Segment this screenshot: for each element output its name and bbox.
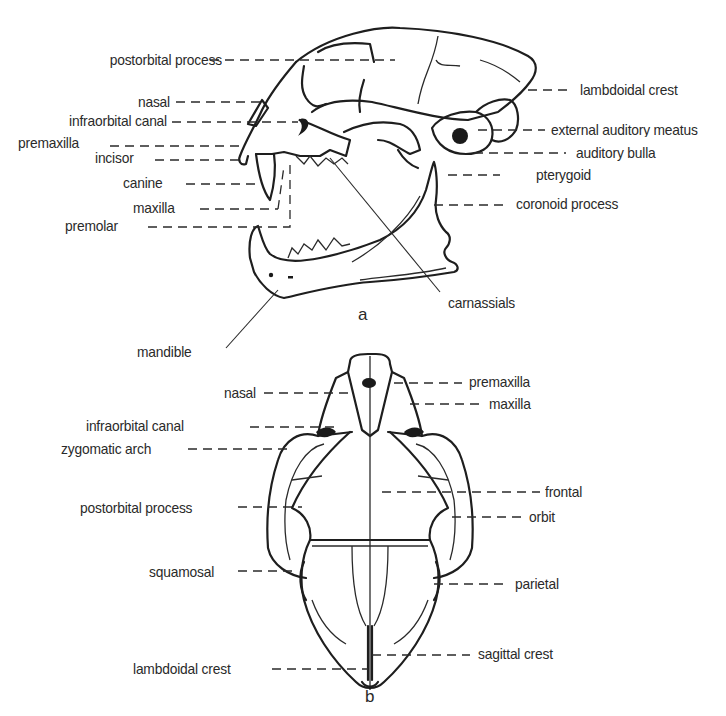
- label-mandible-a: mandible: [137, 344, 192, 359]
- label-sagittal-crest-b: sagittal crest: [478, 646, 553, 661]
- dorsal-leader-lines: [188, 383, 540, 669]
- label-infraorbital-canal-b: infraorbital canal: [86, 418, 184, 433]
- panel-letter-a: a: [358, 305, 367, 325]
- label-frontal-b: frontal: [545, 484, 582, 499]
- label-maxilla-a: maxilla: [133, 200, 175, 215]
- label-auditory-bulla-a: auditory bulla: [576, 145, 656, 160]
- label-premaxilla-a: premaxilla: [18, 135, 79, 150]
- label-canine-a: canine: [123, 175, 163, 190]
- label-incisor-a: incisor: [95, 150, 134, 165]
- label-maxilla-b: maxilla: [489, 396, 531, 411]
- label-coronoid-process-a: coronoid process: [516, 196, 618, 211]
- label-nasal-b: nasal: [168, 385, 256, 400]
- label-premaxilla-b: premaxilla: [469, 374, 530, 389]
- label-premolar-a: premolar: [65, 218, 118, 233]
- label-nasal-a: nasal: [106, 94, 170, 109]
- label-postorbital-process-a: postorbital process: [55, 52, 222, 67]
- label-carnassials-a: carnassials: [448, 295, 515, 310]
- label-zygomatic-arch-b: zygomatic arch: [61, 441, 151, 456]
- label-parietal-b: parietal: [515, 576, 559, 591]
- lateral-skull-drawing: [239, 28, 536, 298]
- panel-letter-b: b: [365, 687, 374, 707]
- label-squamosal-b: squamosal: [149, 564, 214, 579]
- label-lambdoidal-crest-b: lambdoidal crest: [133, 661, 231, 676]
- label-orbit-b: orbit: [529, 509, 555, 524]
- skull-anatomy-figure: postorbital process nasal infraorbital c…: [0, 0, 726, 716]
- label-infraorbital-canal-a: infraorbital canal: [23, 113, 167, 128]
- label-postorbital-process-b: postorbital process: [80, 500, 192, 515]
- label-external-auditory-meatus-a: external auditory meatus: [551, 122, 712, 137]
- label-pterygoid-a: pterygoid: [536, 167, 591, 182]
- label-lambdoidal-crest-a: lambdoidal crest: [580, 82, 678, 97]
